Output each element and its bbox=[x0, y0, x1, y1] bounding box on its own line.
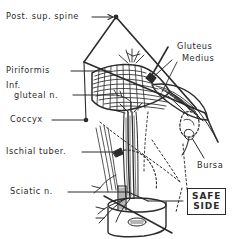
gluteal-contour-dotted-2 bbox=[152, 140, 180, 182]
safe-side-callout: SAFE SIDE bbox=[187, 188, 226, 215]
hamstring-fan bbox=[96, 126, 118, 192]
label-gluteus-medius-line2: Medius bbox=[182, 53, 214, 63]
inferior-gluteal-nerve bbox=[113, 90, 131, 102]
safe-side-line2: SIDE bbox=[192, 201, 221, 211]
label-gluteus-medius-line1: Gluteus bbox=[177, 41, 212, 51]
gluteus-medius-hatching bbox=[156, 86, 203, 121]
sciatic-nerve-bundle-3 bbox=[123, 113, 126, 198]
sciatic-nerve-bundle-4 bbox=[136, 112, 138, 197]
gluteal-contour-dotted-4 bbox=[144, 112, 148, 172]
safe-side-line1: SAFE bbox=[192, 191, 221, 201]
label-inf-line1: Inf. bbox=[6, 80, 21, 90]
label-ischial-tuber: Ischial tuber. bbox=[6, 146, 66, 156]
ischial-tuberosity-arrow bbox=[113, 148, 123, 157]
label-coccyx: Coccyx bbox=[10, 114, 43, 124]
sciatic-nerve-bundle-2 bbox=[132, 112, 134, 198]
ischial-tuberosity-outline bbox=[116, 150, 157, 190]
safe-side-guide-dotted bbox=[176, 188, 182, 212]
label-post-sup-spine: Post. sup. spine bbox=[6, 11, 79, 21]
thigh-cylinder-marking bbox=[128, 218, 146, 226]
thigh-cylinder-marking-hatch bbox=[130, 221, 144, 223]
label-sciatic-nerve: Sciatic n. bbox=[10, 186, 53, 196]
coccyx-point bbox=[84, 118, 89, 123]
label-bursa: Bursa bbox=[197, 160, 223, 170]
leader-bursa bbox=[192, 138, 204, 158]
pelvis-frame-left bbox=[84, 17, 116, 62]
gluteus-medius-tuft bbox=[119, 49, 144, 63]
label-inf-gluteal-nerve: gluteal n. bbox=[14, 90, 58, 100]
anatomical-figure: Post. sup. spine Gluteus Medius Piriform… bbox=[0, 0, 238, 239]
sciatic-branch-left-2 bbox=[92, 186, 100, 188]
psis-point bbox=[114, 15, 119, 20]
trochanter-inner bbox=[184, 119, 194, 125]
label-piriformis: Piriformis bbox=[6, 65, 50, 75]
